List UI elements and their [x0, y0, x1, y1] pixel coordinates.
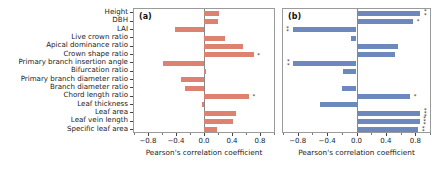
- bar-1-13: [357, 119, 420, 124]
- x-axis-minor-tick: [283, 133, 284, 135]
- significance-marker-1-10: *: [412, 95, 419, 98]
- x-axis-minor-tick: [430, 133, 431, 135]
- bar-0-10: [204, 94, 249, 99]
- x-axis-minor-tick: [274, 133, 275, 135]
- panel-a-x-axis: Pearson's correlation coefficient −0.8−0…: [133, 133, 275, 175]
- x-axis-tick-label-0: −0.8: [285, 137, 311, 145]
- bar-0-6: [163, 61, 204, 66]
- bar-1-11: [320, 102, 357, 107]
- x-axis-tick-label-3: 0.4: [219, 137, 245, 145]
- bar-1-6: [293, 61, 356, 66]
- x-axis-tick-label-1: −0.4: [163, 137, 189, 145]
- y-axis-category-labels: HeightDBHLAILive crown ratioApical domin…: [0, 0, 133, 133]
- bar-1-5: [357, 52, 395, 57]
- x-axis-tick-label-1: −0.4: [314, 137, 340, 145]
- x-axis-tick-label-2: 0.0: [191, 137, 217, 145]
- bar-1-10: [357, 94, 411, 99]
- bar-0-13: [204, 119, 233, 124]
- x-axis-tick-label-2: 0.0: [344, 137, 370, 145]
- bar-1-7: [343, 69, 357, 74]
- x-axis-tick-4: [260, 133, 261, 136]
- bar-0-8: [181, 77, 204, 82]
- x-axis-tick-label-4: 0.8: [247, 137, 273, 145]
- bar-1-12: [357, 111, 421, 116]
- x-axis-tick-3: [386, 133, 387, 136]
- significance-marker-1-1: *: [415, 20, 422, 23]
- x-axis-minor-tick: [371, 133, 372, 135]
- panel-a-x-axis-title: Pearson's correlation coefficient: [133, 148, 275, 157]
- x-axis-minor-tick: [190, 133, 191, 135]
- bar-1-4: [357, 44, 398, 49]
- bar-1-9: [342, 86, 357, 91]
- panel-b: (b) ****************: [282, 8, 431, 133]
- x-axis-tick-3: [232, 133, 233, 136]
- bar-1-1: [357, 19, 414, 24]
- x-axis-tick-0: [148, 133, 149, 136]
- bar-0-5: [204, 52, 254, 57]
- x-axis-tick-label-0: −0.8: [135, 137, 161, 145]
- bar-1-0: [357, 11, 421, 16]
- x-axis-tick-0: [298, 133, 299, 136]
- bar-0-0: [204, 11, 219, 16]
- x-axis-minor-tick: [401, 133, 402, 135]
- y-axis-label-14: Specific leaf area: [67, 125, 128, 133]
- panel-a: (a) **: [133, 8, 275, 133]
- x-axis-minor-tick: [246, 133, 247, 135]
- bar-1-8: [357, 77, 358, 82]
- bar-0-12: [204, 111, 236, 116]
- significance-marker-1-0: **: [422, 10, 429, 16]
- x-axis-tick-label-3: 0.4: [373, 137, 399, 145]
- x-axis-tick-2: [204, 133, 205, 136]
- x-axis-tick-4: [415, 133, 416, 136]
- bar-0-4: [204, 44, 243, 49]
- bar-0-11: [202, 102, 204, 107]
- figure-root: HeightDBHLAILive crown ratioApical domin…: [0, 0, 432, 175]
- bar-0-14: [204, 127, 217, 132]
- significance-marker-1-6: **: [285, 60, 292, 66]
- bar-0-3: [204, 36, 225, 41]
- x-axis-minor-tick: [134, 133, 135, 135]
- panel-b-plot-area: ****************: [283, 9, 430, 132]
- x-axis-tick-label-4: 0.8: [402, 137, 428, 145]
- significance-marker-0-10: *: [250, 95, 257, 98]
- bar-0-1: [204, 19, 218, 24]
- bar-0-9: [185, 86, 204, 91]
- x-axis-minor-tick: [312, 133, 313, 135]
- significance-marker-1-2: **: [284, 27, 291, 33]
- x-axis-tick-2: [357, 133, 358, 136]
- x-axis-minor-tick: [218, 133, 219, 135]
- panel-a-plot-area: **: [134, 9, 274, 132]
- bar-0-2: [175, 27, 204, 32]
- x-axis-minor-tick: [162, 133, 163, 135]
- significance-marker-0-5: *: [255, 54, 262, 57]
- x-axis-tick-1: [327, 133, 328, 136]
- panel-b-x-axis-title: Pearson's correlation coefficient: [282, 148, 431, 157]
- x-axis-tick-1: [176, 133, 177, 136]
- panel-b-x-axis: Pearson's correlation coefficient −0.8−0…: [282, 133, 431, 175]
- bar-1-14: [357, 127, 419, 132]
- bar-1-2: [293, 27, 357, 32]
- x-axis-minor-tick: [342, 133, 343, 135]
- bar-1-3: [351, 36, 357, 41]
- bar-0-7: [204, 69, 206, 74]
